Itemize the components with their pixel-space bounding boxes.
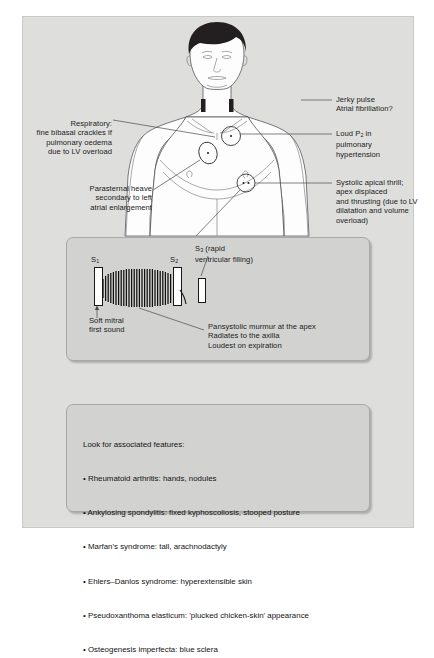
features-heading: Look for associated features:	[83, 439, 309, 450]
feature-item: • Rheumatoid arthritis: hands, nodules	[83, 473, 309, 484]
phonocardiogram-panel: S1 S2 S3 (rapid ventricular filling)	[66, 237, 370, 361]
soft-mitral-label: Soft mitral first sound	[89, 316, 125, 335]
annotation-parasternal-heave: Parasternal heave secondary to left atri…	[26, 184, 152, 212]
annotation-systolic-thrill: Systolic apical thrill; apex displaced a…	[336, 178, 418, 225]
feature-item: • Marfan's syndrome: tall, arachnodactyl…	[83, 541, 309, 552]
associated-features-panel: Look for associated features: • Rheumato…	[66, 404, 370, 512]
feature-item: • Pseudoxanthoma elasticum: 'plucked chi…	[83, 610, 309, 621]
feature-item: • Ankylosing spondylitis: fixed kyphosco…	[83, 507, 309, 518]
loud-p2-text: Loud P	[336, 129, 360, 138]
annotation-loud-p2: Loud P2 in pulmonary hypertension	[336, 129, 380, 159]
annotation-respiratory: Respiratory: fine bibasal crackles if pu…	[26, 119, 112, 157]
pansystolic-murmur-label: Pansystolic murmur at the apex Radiates …	[208, 322, 316, 350]
annotation-jerky-pulse: Jerky pulse Atrial fibrillation?	[336, 95, 393, 114]
feature-item: • Ehlers–Danlos syndrome: hyperextensibl…	[83, 576, 309, 587]
feature-item: • Osteogenesis imperfecta: blue sclera	[83, 644, 309, 655]
features-list: Look for associated features: • Rheumato…	[83, 416, 309, 658]
